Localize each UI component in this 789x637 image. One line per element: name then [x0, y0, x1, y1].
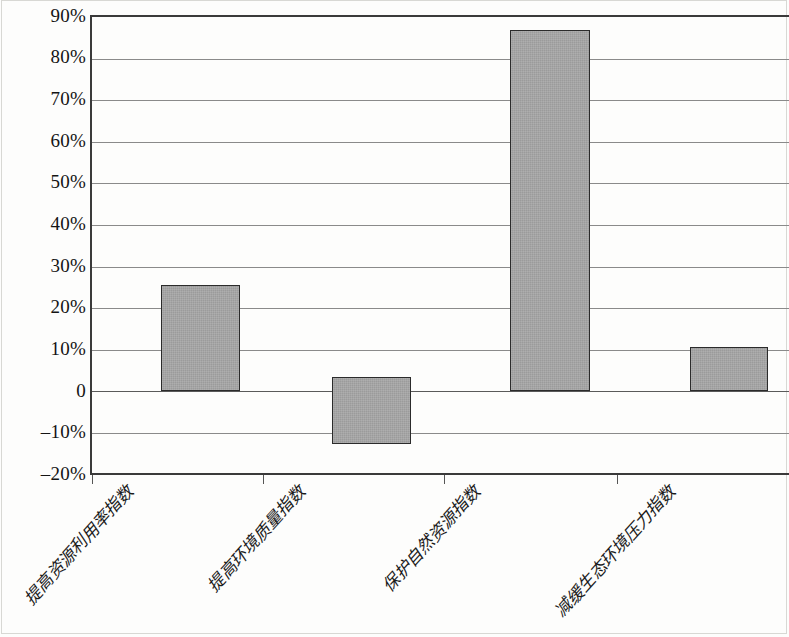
x-axis-category-label-3: 保护自然资源指数	[379, 482, 484, 596]
x-axis-category-label-2: 提高环境质量指数	[204, 482, 309, 596]
gridline-70	[92, 100, 789, 101]
y-axis-tick-label-20: 20%	[0, 297, 86, 316]
bar-category-4	[690, 347, 768, 391]
gridline-zero	[92, 391, 789, 392]
gridline-80	[92, 59, 789, 60]
gridline-60	[92, 142, 789, 143]
plot-area	[90, 15, 789, 475]
y-axis-tick-label-90: 90%	[0, 6, 86, 25]
x-axis-tick-2	[444, 475, 445, 484]
bar-category-2	[332, 377, 411, 444]
gridline-40	[92, 225, 789, 226]
y-axis-tick-label-neg10: –10%	[0, 422, 86, 441]
y-axis-tick-label-0: 0	[0, 381, 86, 400]
chart-figure: 90% 80% 70% 60% 50% 40% 30% 20% 10% 0 –1…	[0, 0, 789, 637]
y-axis-tick-label-70: 70%	[0, 89, 86, 108]
x-axis-category-label-1: 提高资源利用率指数	[21, 482, 137, 608]
y-axis-tick-label-neg20: –20%	[0, 464, 86, 483]
y-axis-tick-label-50: 50%	[0, 172, 86, 191]
y-axis-tick-label-60: 60%	[0, 131, 86, 150]
y-axis-tick-label-40: 40%	[0, 214, 86, 233]
gridline-neg10	[92, 433, 789, 434]
x-axis-tick-0	[92, 475, 93, 484]
gridline-50	[92, 183, 789, 184]
y-axis-tick-label-80: 80%	[0, 47, 86, 66]
x-axis-category-label-4: 减缓生态环境压力指数	[551, 482, 679, 621]
y-axis-tick-label-10: 10%	[0, 339, 86, 358]
y-axis-tick-label-30: 30%	[0, 256, 86, 275]
gridline-30	[92, 267, 789, 268]
bar-category-1	[161, 285, 240, 391]
bar-category-3	[510, 30, 590, 391]
x-axis-tick-3	[617, 475, 618, 484]
x-axis-tick-1	[263, 475, 264, 484]
